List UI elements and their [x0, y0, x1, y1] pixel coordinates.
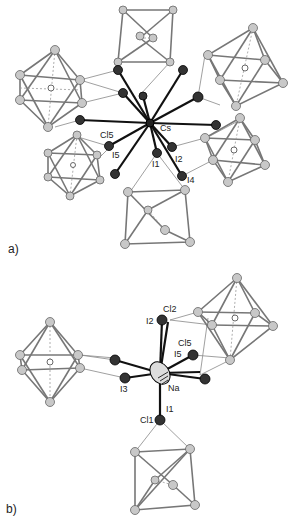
label-i2-a: I2: [175, 154, 183, 164]
octahedral-cage-bottom: [121, 186, 195, 249]
panel-a-label: a): [8, 242, 19, 256]
label-i4-a: I4: [187, 175, 195, 185]
figure-canvas: Cs Cl5 I5 I1 I2 I4 a): [0, 0, 298, 525]
octahedral-cage-upper-right: [204, 24, 288, 111]
label-cl5-b: Cl5: [178, 338, 192, 348]
label-i5-a: I5: [112, 150, 120, 160]
label-i1-a: I1: [152, 159, 160, 169]
label-cs: Cs: [160, 123, 171, 133]
label-i3-b: I3: [120, 384, 128, 394]
octahedral-cage-top: [114, 6, 177, 66]
panel-b-label: b): [6, 502, 17, 516]
octahedral-cage-b-bottom: [131, 445, 200, 515]
label-cl1-b: Cl1: [140, 415, 154, 425]
cs-atom: [146, 119, 154, 127]
panel-b-diagram: Cl2 I2 Cl5 I5 I3 Na I1 Cl1: [16, 274, 278, 515]
octahedral-cage-lower-left: [44, 131, 104, 200]
octahedral-cage-b-left: [16, 318, 85, 407]
panel-a-diagram: Cs Cl5 I5 I1 I2 I4: [16, 6, 288, 249]
label-i1-b: I1: [166, 404, 174, 414]
label-i2-b: I2: [146, 316, 154, 326]
label-cl2-b: Cl2: [163, 304, 177, 314]
label-cl5-a: Cl5: [100, 130, 114, 140]
label-na: Na: [168, 383, 180, 393]
octahedral-cage-b-upper-right: [194, 274, 278, 365]
label-i5-b: I5: [174, 349, 182, 359]
